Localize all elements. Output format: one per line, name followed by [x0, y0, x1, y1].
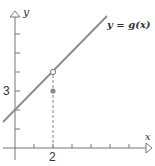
graph-line-g [3, 16, 107, 122]
x-axis-label: x [145, 131, 151, 142]
open-circle-point [50, 69, 55, 74]
y-axis-arrow-icon [10, 11, 20, 17]
y-tick-label-3: 3 [3, 84, 10, 98]
x-axis-arrow-icon [146, 143, 152, 153]
y-ticks [15, 34, 20, 129]
y-axis-label: y [23, 6, 29, 19]
x-tick-label-2: 2 [49, 150, 56, 164]
filled-dot-point [50, 88, 55, 93]
x-ticks [34, 144, 129, 148]
curve-label: y = g(x) [107, 19, 151, 30]
